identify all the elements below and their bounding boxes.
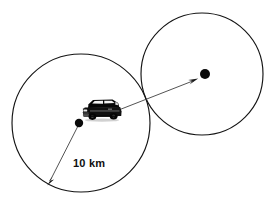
diagram-canvas: 10 km bbox=[0, 0, 275, 210]
radius-measure-line bbox=[51, 124, 80, 180]
radius-arrow-icon bbox=[47, 177, 54, 186]
link-line bbox=[120, 81, 194, 110]
car-icon-graphic bbox=[79, 95, 123, 123]
distance-label: 10 km bbox=[73, 157, 105, 169]
target-node-dot bbox=[200, 69, 210, 79]
link-arrow-icon bbox=[188, 79, 198, 85]
car-icon bbox=[79, 95, 123, 123]
range-diagram: 10 km bbox=[0, 0, 275, 210]
